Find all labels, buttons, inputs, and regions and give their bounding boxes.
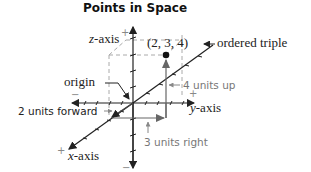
z-axis-label: z-axis	[88, 31, 119, 46]
coordinate-space-diagram: + − − + + z-axis y-axis x-axis (2, 3, 4)…	[0, 0, 311, 172]
y-axis-label: y-axis	[188, 100, 221, 115]
units-right-label: 3 units right	[144, 136, 208, 148]
point-marker	[163, 52, 170, 59]
ordered-triple-label: ordered triple	[217, 35, 288, 50]
units-up-label: 4 units up	[183, 79, 236, 91]
x-axis-label: x-axis	[67, 148, 99, 163]
units-forward-label: 2 units forward	[18, 105, 97, 117]
y-minus-sign: −	[71, 89, 79, 100]
z-minus-sign: −	[122, 162, 130, 172]
ordered-triple-value: (2, 3, 4)	[147, 35, 188, 50]
z-plus-sign: +	[121, 27, 129, 38]
origin-label: origin	[64, 74, 96, 89]
path-to-point	[112, 60, 166, 118]
z-axis	[130, 27, 136, 168]
x-plus-sign: +	[57, 145, 65, 156]
